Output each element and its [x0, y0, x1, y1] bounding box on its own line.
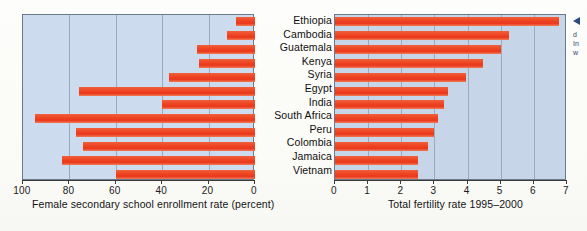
x-axis-tick	[115, 180, 116, 184]
x-axis-tick-label: 100	[13, 185, 30, 196]
bar-row	[335, 87, 565, 96]
bar-row	[335, 142, 565, 151]
callout-line-1: d	[573, 31, 577, 38]
country-label: South Africa	[256, 109, 332, 123]
bar-row	[23, 45, 253, 54]
x-axis-tick	[254, 180, 255, 184]
bar	[335, 128, 434, 137]
x-axis-tick-label: 2	[397, 185, 403, 196]
bar-row	[23, 128, 253, 137]
margin-callout: d In w	[571, 8, 587, 66]
bar-row	[335, 31, 565, 40]
bar	[335, 73, 466, 82]
country-label: Syria	[256, 68, 332, 82]
bar-row	[335, 128, 565, 137]
country-label: Cambodia	[256, 28, 332, 42]
bar	[335, 59, 483, 68]
x-axis-tick	[161, 180, 162, 184]
bar	[236, 17, 255, 26]
bar	[116, 170, 255, 179]
country-label: Kenya	[256, 55, 332, 69]
country-label: Ethiopia	[256, 14, 332, 28]
bar-row	[23, 114, 253, 123]
bar	[335, 45, 501, 54]
x-axis-title-right: Total fertility rate 1995–2000	[388, 198, 523, 210]
bar-row	[23, 142, 253, 151]
x-axis-tick-label: 3	[431, 185, 437, 196]
callout-line-2: In	[573, 40, 579, 47]
bar	[162, 100, 255, 109]
x-axis-tick	[367, 180, 368, 184]
x-axis-tick-label: 5	[497, 185, 503, 196]
x-axis-tick-label: 20	[202, 185, 214, 196]
bar-row	[335, 156, 565, 165]
bar	[169, 73, 255, 82]
x-axis-tick	[22, 180, 23, 184]
bar	[35, 114, 255, 123]
bar	[335, 170, 418, 179]
bar	[335, 142, 428, 151]
x-axis-tick	[334, 180, 335, 184]
x-axis-tick	[500, 180, 501, 184]
x-axis-tick	[68, 180, 69, 184]
x-axis-tick	[467, 180, 468, 184]
bar	[227, 31, 255, 40]
x-axis-tick	[208, 180, 209, 184]
chart-fertility-plot-area	[334, 14, 566, 180]
x-axis-line-left	[22, 180, 254, 181]
x-axis-line-right	[334, 180, 566, 181]
x-axis-tick-label: 0	[251, 185, 257, 196]
bar-row	[335, 114, 565, 123]
bar-row	[23, 87, 253, 96]
bar	[335, 100, 444, 109]
bar-row	[23, 170, 253, 179]
bar	[335, 156, 418, 165]
bar	[335, 17, 559, 26]
x-axis-tick-label: 1	[364, 185, 370, 196]
x-axis-tick	[433, 180, 434, 184]
left-arrow-marker-icon	[573, 17, 580, 25]
x-axis-tick-label: 7	[563, 185, 569, 196]
x-axis-tick	[533, 180, 534, 184]
bar	[83, 142, 255, 151]
bar	[79, 87, 255, 96]
bar-row	[23, 59, 253, 68]
bar	[62, 156, 255, 165]
figure-page: 100806040200 Female secondary school enr…	[0, 0, 587, 231]
bar	[76, 128, 255, 137]
x-axis-tick-label: 80	[63, 185, 75, 196]
country-label: Jamaica	[256, 150, 332, 164]
country-label: Vietnam	[256, 164, 332, 178]
callout-line-3: w	[573, 49, 578, 56]
bars-right	[335, 15, 565, 179]
x-axis-tick	[566, 180, 567, 184]
bar-row	[335, 17, 565, 26]
bar-row	[335, 170, 565, 179]
bar	[335, 114, 438, 123]
bar-row	[23, 31, 253, 40]
bar-row	[335, 59, 565, 68]
bar	[335, 31, 509, 40]
country-label: Peru	[256, 123, 332, 137]
x-axis-title-left: Female secondary school enrollment rate …	[32, 198, 274, 210]
bar	[197, 45, 255, 54]
x-axis-tick-label: 0	[331, 185, 337, 196]
bar-row	[335, 100, 565, 109]
bar-row	[23, 156, 253, 165]
bar-row	[23, 17, 253, 26]
bar-row	[23, 73, 253, 82]
bar-row	[23, 100, 253, 109]
country-label: Guatemala	[256, 41, 332, 55]
bars-left	[23, 15, 253, 179]
bar	[199, 59, 255, 68]
x-axis-tick-label: 4	[464, 185, 470, 196]
country-label-list: EthiopiaCambodiaGuatemalaKenyaSyriaEgypt…	[256, 14, 332, 177]
bar-row	[335, 73, 565, 82]
chart-female-enrollment-plot-area	[22, 14, 254, 180]
country-label: Egypt	[256, 82, 332, 96]
country-label: Colombia	[256, 136, 332, 150]
x-axis-tick	[400, 180, 401, 184]
x-axis-tick-label: 40	[155, 185, 167, 196]
x-axis-tick-label: 60	[109, 185, 121, 196]
x-axis-tick-label: 6	[530, 185, 536, 196]
